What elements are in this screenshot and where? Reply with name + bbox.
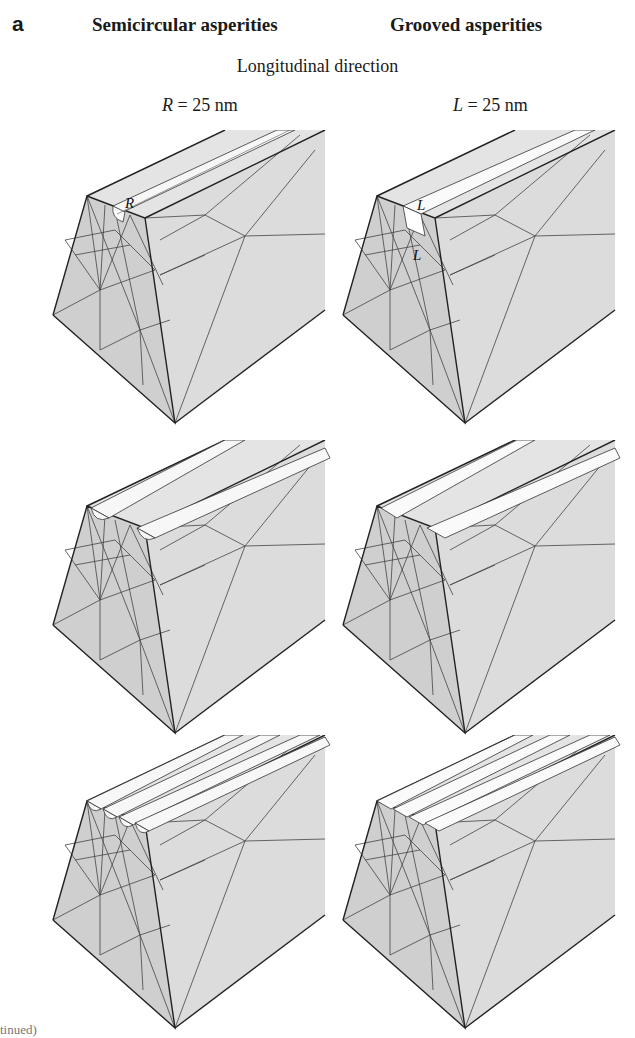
mesh-grooved-2 <box>335 440 625 740</box>
figure-subtitle: Longitudinal direction <box>0 56 635 77</box>
param-label-radius: R = 25 nm <box>162 95 238 116</box>
caption-fragment: tinued) <box>0 1022 37 1038</box>
length-annotation-icon: L <box>416 197 425 213</box>
param-label-length: L = 25 nm <box>453 95 528 116</box>
panel-letter: a <box>12 12 24 36</box>
mesh-grooved-1: L L <box>335 130 625 430</box>
param-value: = 25 nm <box>178 95 238 115</box>
param-symbol: L <box>453 95 463 115</box>
radius-annotation-icon: R <box>124 195 134 211</box>
param-value: = 25 nm <box>468 95 528 115</box>
param-symbol: R <box>162 95 173 115</box>
column-title-semicircular: Semicircular asperities <box>92 14 278 36</box>
mesh-grooved-4 <box>335 735 625 1035</box>
mesh-semicircular-1: R <box>45 130 335 430</box>
mesh-semicircular-4 <box>45 735 335 1035</box>
column-title-grooved: Grooved asperities <box>390 14 542 36</box>
depth-annotation-icon: L <box>412 247 421 263</box>
mesh-semicircular-2 <box>45 440 335 740</box>
